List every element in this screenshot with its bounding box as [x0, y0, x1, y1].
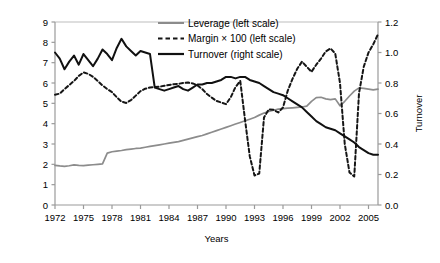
y-left-tick-label: 1: [43, 179, 48, 190]
y-right-tick-label: 0.6: [385, 108, 398, 119]
x-tick-label: 1996: [272, 212, 293, 223]
y-right-tick-label: 0.8: [385, 78, 398, 89]
legend-label-2: Turnover (right scale): [188, 49, 283, 60]
x-tick-label: 2002: [329, 212, 350, 223]
y-right-tick-label: 1.0: [385, 47, 398, 58]
y-left-tick-label: 5: [43, 98, 48, 109]
y-left-tick-label: 3: [43, 139, 48, 150]
y-left-tick-label: 7: [43, 57, 48, 68]
line-chart: 0123456789 0.00.20.40.60.81.01.2 1972197…: [0, 0, 440, 263]
legend-label-1: Margin × 100 (left scale): [188, 33, 296, 44]
y-right-tick-label: 0.0: [385, 200, 398, 211]
y-right-tick-label: 1.2: [385, 17, 398, 28]
x-tick-label: 2005: [358, 212, 379, 223]
x-tick-label: 1987: [187, 212, 208, 223]
y-left-tick-label: 9: [43, 17, 48, 28]
y-left-tick-label: 4: [43, 118, 48, 129]
x-tick-label: 1972: [44, 212, 65, 223]
legend-label-0: Leverage (left scale): [188, 18, 279, 29]
x-tick-label: 1978: [101, 212, 122, 223]
y-left-tick-label: 6: [43, 78, 48, 89]
y-left-tick-label: 8: [43, 37, 48, 48]
y-axis-right-title: Turnover: [413, 95, 424, 133]
x-tick-label: 1999: [301, 212, 322, 223]
x-tick-label: 1993: [244, 212, 265, 223]
y-right-tick-label: 0.2: [385, 169, 398, 180]
x-tick-label: 1990: [215, 212, 236, 223]
x-axis-title: Years: [205, 233, 229, 244]
x-tick-label: 1984: [158, 212, 179, 223]
x-tick-label: 1981: [130, 212, 151, 223]
x-tick-label: 1975: [73, 212, 94, 223]
chart-container: 0123456789 0.00.20.40.60.81.01.2 1972197…: [0, 0, 440, 263]
y-left-tick-label: 2: [43, 159, 48, 170]
y-right-tick-label: 0.4: [385, 139, 398, 150]
y-left-tick-label: 0: [43, 200, 48, 211]
